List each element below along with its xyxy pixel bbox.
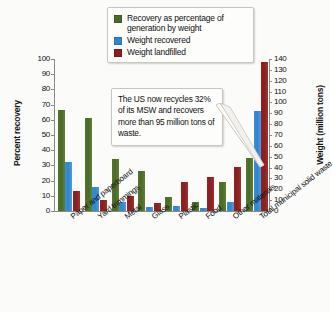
y-tick-left-50: 50 xyxy=(26,130,50,139)
y-tick-right-120: 120 xyxy=(274,76,300,85)
y-tick-mark-right xyxy=(269,124,272,125)
y-tick-mark-right xyxy=(269,102,272,103)
chart-legend: Recovery as percentage of generation by … xyxy=(107,7,254,63)
y-tick-right-110: 110 xyxy=(274,87,300,96)
legend-swatch-green xyxy=(114,15,122,23)
y-tick-mark-right xyxy=(269,168,272,169)
y-tick-mark-right xyxy=(269,135,272,136)
y-tick-right-80: 80 xyxy=(274,119,300,128)
y-tick-right-70: 70 xyxy=(274,130,300,139)
legend-label-weight-recovered: Weight recovered xyxy=(127,35,190,45)
y-tick-mark-right xyxy=(269,146,272,147)
y-tick-right-100: 100 xyxy=(274,97,300,106)
legend-item-recovery-percentage: Recovery as percentage of generation by … xyxy=(114,13,247,33)
y-tick-left-80: 80 xyxy=(26,84,50,93)
bar xyxy=(146,207,153,211)
y-tick-left-70: 70 xyxy=(26,100,50,109)
y-tick-right-60: 60 xyxy=(274,141,300,150)
legend-item-weight-recovered: Weight recovered xyxy=(114,35,247,45)
y-axis-left-title: Percent recovery xyxy=(12,83,22,183)
bar xyxy=(173,206,180,211)
bar xyxy=(58,110,65,211)
y-tick-left-20: 20 xyxy=(26,176,50,185)
y-tick-mark-right xyxy=(269,113,272,114)
bar xyxy=(65,162,72,211)
legend-label-recovery-percentage: Recovery as percentage of generation by … xyxy=(127,13,247,33)
y-tick-mark-right xyxy=(269,92,272,93)
legend-item-weight-landfilled: Weight landfilled xyxy=(114,47,247,57)
bar xyxy=(200,208,207,211)
y-tick-mark-right xyxy=(269,200,272,201)
y-tick-left-30: 30 xyxy=(26,160,50,169)
y-tick-left-60: 60 xyxy=(26,115,50,124)
legend-swatch-blue xyxy=(114,37,122,45)
callout-annotation: The US now recycles 32% of its MSW and r… xyxy=(111,88,223,146)
legend-label-weight-landfilled: Weight landfilled xyxy=(127,47,186,57)
y-tick-mark-right xyxy=(269,178,272,179)
y-tick-right-140: 140 xyxy=(274,54,300,63)
legend-swatch-red xyxy=(114,49,122,57)
y-tick-mark-right xyxy=(269,59,272,60)
y-tick-right-30: 30 xyxy=(274,173,300,182)
y-tick-right-90: 90 xyxy=(274,108,300,117)
y-tick-left-90: 90 xyxy=(26,69,50,78)
callout-text: The US now recycles 32% of its MSW and r… xyxy=(118,94,216,140)
bar-group xyxy=(58,59,80,211)
y-tick-left-10: 10 xyxy=(26,191,50,200)
y-tick-left-40: 40 xyxy=(26,145,50,154)
y-tick-right-130: 130 xyxy=(274,65,300,74)
y-tick-mark-right xyxy=(269,81,272,82)
y-tick-mark-right xyxy=(269,70,272,71)
y-tick-mark-left xyxy=(51,211,54,212)
y-tick-mark-right xyxy=(269,157,272,158)
y-tick-right-50: 50 xyxy=(274,152,300,161)
y-tick-left-100: 100 xyxy=(26,54,50,63)
y-tick-left-0: 0 xyxy=(26,206,50,215)
bar xyxy=(227,202,234,211)
bar xyxy=(234,167,241,211)
y-tick-right-40: 40 xyxy=(274,163,300,172)
